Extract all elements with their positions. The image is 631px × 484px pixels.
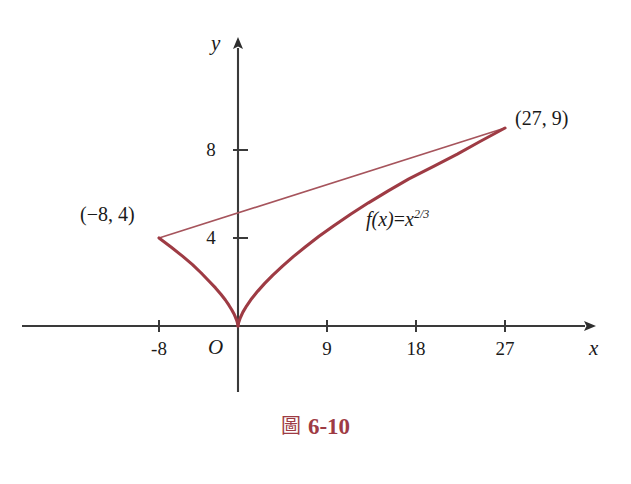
y-tick-label-8: 8	[198, 140, 224, 159]
origin-label: O	[208, 337, 223, 358]
y-tick-marks	[233, 150, 248, 238]
figure-caption-glyph: 圖	[281, 416, 301, 436]
x-tick-label-9: 9	[312, 339, 342, 358]
left-endpoint-label: (−8, 4)	[80, 204, 135, 224]
function-label-fx: f(x)	[366, 208, 394, 230]
curve-left-branch	[159, 238, 238, 326]
right-endpoint-label: (27, 9)	[515, 108, 568, 128]
x-tick-label-minus8: -8	[139, 339, 179, 358]
x-axis-label: x	[589, 338, 598, 359]
figure-container: y x O -8 9 18 27 8 4 (−8, 4) (27, 9) f(x…	[0, 0, 631, 484]
y-axis-label: y	[211, 33, 220, 54]
figure-caption: 圖6-10	[0, 414, 631, 440]
function-label: f(x)=x2/3	[366, 208, 429, 229]
x-tick-label-27: 27	[487, 339, 523, 358]
function-label-variable: x	[405, 208, 414, 230]
y-tick-label-4: 4	[198, 228, 224, 247]
x-tick-label-18: 18	[398, 339, 434, 358]
function-label-equals: =	[394, 208, 405, 230]
figure-caption-number: 6-10	[308, 414, 350, 440]
function-label-exponent: 2/3	[414, 207, 429, 221]
plot-svg	[0, 0, 631, 484]
